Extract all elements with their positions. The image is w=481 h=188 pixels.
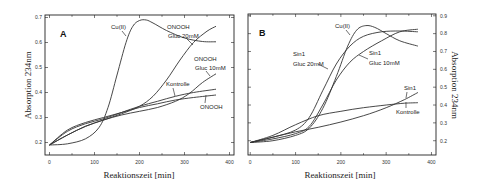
plot-frame-a — [45, 15, 234, 155]
figure: 01002003004000.20.30.40.50.60.7 A Reakti… — [0, 0, 481, 188]
x-tick-label: 100 — [90, 159, 99, 165]
x-tick-label: 200 — [135, 159, 144, 165]
y-tick-label: 0.3 — [35, 114, 42, 120]
y-tick-label: 0.6 — [35, 39, 42, 45]
y-tick-label: 0.4 — [440, 102, 447, 108]
chart-panel-a: 01002003004000.20.30.40.50.60.7 A Reakti… — [23, 14, 234, 180]
x-axis-title-a: Reaktionszeit [min] — [103, 170, 174, 180]
y-tick-label: 0.7 — [440, 48, 447, 54]
label-sin1-b: Sin1 — [404, 85, 417, 91]
label-gluc-10-a: Gluc 10mM — [195, 65, 226, 71]
leader-sin1-b — [406, 92, 407, 98]
y-axis-title-b: Absorption 234nm — [450, 51, 460, 119]
x-tick-label: 300 — [382, 159, 391, 165]
leader-gluc10-b — [359, 55, 368, 59]
y-tick-label: 0.2 — [440, 138, 447, 144]
label-gluc-20-a: Gluc 20mM — [168, 33, 199, 39]
x-tick-label: 400 — [225, 159, 234, 165]
label-onooh-20-a1: ONOOH — [167, 24, 190, 30]
x-axis-title-b: Reaktionszeit [min] — [304, 170, 375, 180]
panel-label-b: B — [259, 28, 266, 38]
axis-ticks-b: 01002003004000.20.30.40.50.60.70.80.9 — [248, 13, 447, 165]
x-tick-label: 0 — [249, 159, 252, 165]
leader-cu-a — [122, 31, 126, 36]
curves-b — [250, 25, 418, 142]
series-line — [250, 29, 418, 142]
x-tick-label: 400 — [427, 159, 436, 165]
x-tick-label: 200 — [337, 159, 346, 165]
y-tick-label: 0.9 — [440, 13, 447, 19]
x-tick-label: 100 — [291, 159, 300, 165]
panel-label-a: A — [60, 29, 67, 39]
leader-cu-b — [346, 30, 350, 35]
x-tick-label: 300 — [180, 159, 189, 165]
label-onooh-10-a1: ONOOH — [194, 56, 217, 62]
label-sin1-10-b1: Sin1 — [369, 50, 382, 56]
x-tick-label: 0 — [48, 159, 51, 165]
label-kontrolle-b: Kontrolle — [396, 109, 420, 115]
y-tick-label: 0.7 — [35, 14, 42, 20]
leader-kontrolle-a — [173, 88, 175, 96]
label-kontrolle-a: Kontrolle — [166, 81, 190, 87]
y-tick-label: 0.6 — [440, 66, 447, 72]
series-line — [250, 31, 418, 143]
label-cu-a: Cu(II) — [111, 24, 126, 30]
y-tick-label: 0.8 — [440, 30, 447, 36]
leader-gluc10-a — [206, 71, 210, 76]
chart-panel-b: 01002003004000.20.30.40.50.60.70.80.9 B … — [248, 13, 460, 180]
label-cu-b: Cu(II) — [335, 23, 350, 29]
y-tick-label: 0.3 — [440, 120, 447, 126]
y-axis-title-a: Absorption 234nm — [23, 51, 33, 119]
series-line — [50, 95, 217, 145]
label-sin1-20-b1: Sin1 — [293, 51, 306, 57]
y-tick-label: 0.2 — [35, 139, 42, 145]
y-tick-label: 0.4 — [35, 89, 42, 95]
y-tick-label: 0.5 — [440, 84, 447, 90]
series-line — [50, 26, 217, 145]
label-onooh-a: ONOOH — [200, 104, 223, 110]
label-gluc-20-b: Gluc 20mM — [293, 61, 324, 67]
label-gluc-10-b: Gluc 10mM — [369, 60, 400, 66]
y-tick-label: 0.5 — [35, 64, 42, 70]
series-line — [250, 93, 418, 143]
